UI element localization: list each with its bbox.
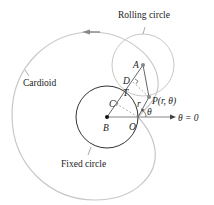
- cardioid-diagram: Rolling circle Cardioid Fixed circle A D…: [0, 0, 214, 205]
- label-r: r: [137, 99, 141, 109]
- line-AP: [143, 65, 149, 97]
- polar-axis-arrow-icon: [170, 115, 176, 120]
- label-A: A: [132, 60, 139, 70]
- label-rolling-circle: Rolling circle: [118, 10, 170, 20]
- label-fixed-circle: Fixed circle: [61, 159, 106, 169]
- right-angle-D: [135, 79, 138, 84]
- label-C: C: [109, 99, 116, 109]
- label-theta: θ: [147, 107, 152, 117]
- label-T: T: [123, 88, 129, 98]
- label-P: P(r, θ): [151, 96, 176, 107]
- point-P: [147, 95, 151, 99]
- leader-fixed-circle: [88, 147, 91, 155]
- label-cardioid: Cardioid: [23, 78, 56, 88]
- point-A: [141, 63, 145, 67]
- leader-rolling-circle: [143, 27, 145, 34]
- label-polar-axis: θ = 0: [178, 113, 199, 123]
- label-D: D: [122, 76, 130, 86]
- point-B: [105, 115, 109, 119]
- dashed-OC: [117, 104, 138, 117]
- label-B: B: [103, 123, 109, 133]
- label-O: O: [129, 122, 136, 132]
- leader-cardioid: [25, 70, 29, 76]
